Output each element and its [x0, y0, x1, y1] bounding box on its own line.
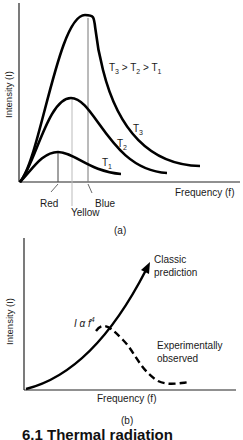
figure-caption: 6.1 Thermal radiation — [0, 426, 243, 440]
relation-label: T3 > T2 > T1 — [109, 62, 162, 75]
chart-a: Intensity (I) Frequency (f) T3 > T2 > T1… — [3, 3, 240, 236]
x-axis-label-a: Frequency (f) — [175, 187, 234, 198]
y-axis-label-b: Intensity (I) — [4, 298, 15, 345]
law-label: I α f4 — [74, 316, 95, 329]
panel-label-a: (a) — [114, 225, 126, 236]
x-axis-label-b: Frequency (f) — [97, 393, 156, 404]
panel-label-b: (b) — [121, 415, 133, 426]
curve-t3 — [20, 15, 200, 182]
observed-label-2: observed — [157, 353, 198, 364]
classic-label-1: Classic — [154, 254, 186, 265]
observed-label-1: Experimentally — [157, 340, 223, 351]
blue-label: Blue — [95, 198, 115, 209]
t1-label: T1 — [102, 157, 112, 170]
classic-label-2: prediction — [154, 267, 197, 278]
chart-b: Intensity (I) Frequency (f) Classic pred… — [4, 238, 236, 426]
arrow-head-icon — [141, 262, 150, 274]
red-label: Red — [40, 198, 58, 209]
blue-leader — [88, 184, 92, 193]
y-axis-label-a: Intensity (I) — [3, 71, 14, 118]
curve-t2 — [20, 98, 167, 182]
red-leader — [51, 184, 58, 192]
classic-prediction-curve — [26, 270, 146, 389]
